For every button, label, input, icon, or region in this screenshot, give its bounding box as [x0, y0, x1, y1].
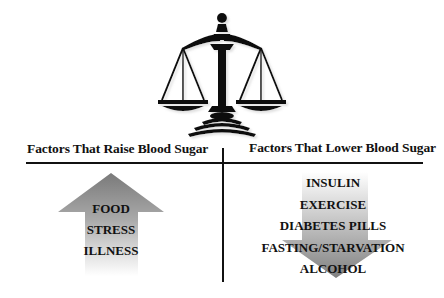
- lower-factor-item: EXERCISE: [248, 194, 418, 216]
- vertical-divider: [222, 148, 224, 282]
- scales-of-justice-icon: [150, 4, 300, 140]
- lower-factor-item: ALCOHOL: [248, 258, 418, 280]
- raise-factor-item: FOOD: [70, 198, 152, 219]
- raise-factors-list: FOOD STRESS ILLNESS: [70, 198, 152, 261]
- lower-heading: Factors That Lower Blood Sugar: [249, 140, 436, 156]
- raise-heading: Factors That Raise Blood Sugar: [27, 141, 208, 157]
- lower-factors-list: INSULIN EXERCISE DIABETES PILLS FASTING/…: [248, 172, 418, 280]
- raise-factor-item: ILLNESS: [70, 240, 152, 261]
- lower-factor-item: INSULIN: [248, 172, 418, 194]
- horizontal-divider: [26, 162, 423, 164]
- raise-factor-item: STRESS: [70, 219, 152, 240]
- lower-factor-item: FASTING/STARVATION: [248, 237, 418, 259]
- lower-factor-item: DIABETES PILLS: [248, 215, 418, 237]
